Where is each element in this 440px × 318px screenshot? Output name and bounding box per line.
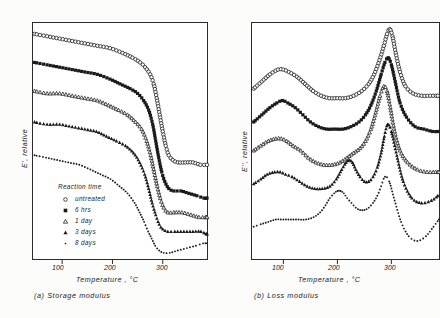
x-tick-200-loss: 200 bbox=[328, 264, 340, 271]
filled-square-icon bbox=[62, 207, 69, 214]
x-tick-100-loss: 100 bbox=[272, 264, 284, 271]
panel-loss-modulus: E'', relative 100 200 300 Temperature , … bbox=[220, 0, 440, 318]
x-axis-label-storage: Temperature , °C bbox=[76, 275, 139, 284]
y-axis-label-storage: E', relative bbox=[20, 129, 29, 168]
legend-label-3days: 3 days bbox=[75, 228, 96, 235]
open-circle-icon bbox=[62, 196, 69, 203]
legend-label-1day: 1 day bbox=[75, 217, 92, 224]
legend-label-8days: 8 days bbox=[75, 239, 96, 246]
caption-loss: (b) Loss modulus bbox=[254, 291, 319, 300]
dma-figure: E', relative 100 200 300 Temperature , °… bbox=[0, 0, 440, 318]
x-tick-300-storage: 300 bbox=[156, 264, 168, 271]
y-axis-label-loss: E'', relative bbox=[240, 131, 249, 172]
dot-icon bbox=[62, 240, 69, 247]
legend-title: Reaction time bbox=[58, 183, 102, 190]
x-tick-300-loss: 300 bbox=[384, 264, 396, 271]
legend: Reaction time untreated 6 hrs 1 day bbox=[58, 183, 144, 243]
filled-triangle-icon bbox=[62, 229, 69, 236]
legend-label-untreated: untreated bbox=[75, 195, 105, 202]
panel-storage-modulus: E', relative 100 200 300 Temperature , °… bbox=[0, 0, 220, 318]
x-tick-200-storage: 200 bbox=[104, 264, 116, 271]
open-triangle-icon bbox=[62, 218, 69, 225]
x-axis-label-loss: Temperature , °C bbox=[298, 275, 361, 284]
caption-storage: (a) Storage modulus bbox=[34, 291, 111, 300]
x-tick-100-storage: 100 bbox=[52, 264, 64, 271]
legend-label-6hrs: 6 hrs bbox=[75, 206, 91, 213]
